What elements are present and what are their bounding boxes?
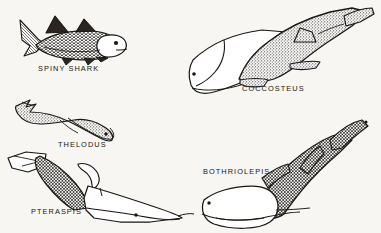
label-coccosteus: COCCOSTEUS — [242, 84, 305, 93]
thelodus-eye — [104, 132, 107, 135]
pteraspis-head-shield — [84, 186, 182, 222]
spiny-shark-dorsal-fin-1 — [46, 16, 68, 33]
bothriolepis-tail — [330, 120, 368, 150]
illustration-plate: SPINY SHARK COCCOSTEUS THELODUS PTERASPI… — [0, 0, 381, 233]
label-spiny-shark: SPINY SHARK — [38, 64, 99, 73]
label-thelodus: THELODUS — [58, 140, 107, 149]
bothriolepis-eye — [207, 201, 210, 204]
figure-coccosteus — [189, 8, 374, 93]
pteraspis-eye — [134, 213, 137, 216]
thelodus-body — [16, 100, 113, 141]
bothriolepis-tail-tip — [365, 121, 368, 124]
label-bothriolepis: BOTHRIOLEPIS — [203, 167, 270, 176]
spiny-shark-dorsal-fin-2 — [76, 19, 95, 32]
spiny-shark-head — [97, 35, 126, 57]
bothriolepis-head-shield — [202, 186, 278, 228]
coccosteus-eye — [192, 72, 196, 76]
figure-spiny-shark — [20, 16, 127, 65]
fish-illustrations-svg — [0, 0, 381, 233]
label-pteraspis: PTERASPIS — [31, 207, 82, 216]
spiny-shark-eye — [114, 41, 118, 45]
pteraspis-dorsal-spine — [78, 163, 99, 188]
figure-thelodus — [16, 100, 114, 141]
pteraspis-rostrum — [178, 214, 194, 216]
